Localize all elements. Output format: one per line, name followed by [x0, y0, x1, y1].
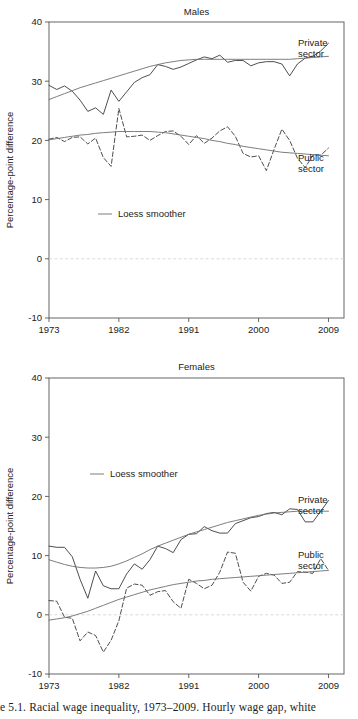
x-axis-tick-label: 2009: [318, 680, 339, 691]
x-axis-tick-label: 1982: [108, 680, 129, 691]
series-line-public-sector: [49, 552, 328, 652]
y-axis-tick-label: -10: [28, 312, 42, 323]
public-sector-label-line1: Public: [298, 549, 324, 560]
y-axis-tick-label: -10: [28, 668, 42, 679]
panel-title: Females: [178, 361, 215, 372]
series-line-private-sector-loess: [49, 511, 328, 568]
figure-racial-wage-inequality: Males403020100-1019731982199120002009Per…: [0, 0, 358, 719]
y-axis-tick-label: 0: [37, 609, 42, 620]
private-sector-label-line1: Private: [298, 494, 328, 505]
x-axis-tick-label: 1973: [38, 324, 59, 335]
series-line-private-sector: [49, 43, 328, 114]
series-line-private-sector-loess: [49, 56, 328, 99]
chart-panel-females: Females403020100-1019731982199120002009P…: [0, 352, 358, 700]
private-sector-label-line2: sector: [298, 48, 324, 59]
x-axis-tick-label: 2009: [318, 324, 339, 335]
x-axis-tick-label: 1991: [178, 324, 199, 335]
y-axis-tick-label: 30: [31, 432, 42, 443]
series-line-private-sector: [49, 501, 328, 599]
females-chart-svg: Females403020100-1019731982199120002009P…: [0, 352, 358, 700]
series-line-public-sector-loess: [49, 570, 328, 620]
chart-panel-males: Males403020100-1019731982199120002009Per…: [0, 0, 358, 352]
legend-loess-label: Loess smoother: [118, 208, 186, 219]
y-axis-tick-label: 10: [31, 194, 42, 205]
y-axis-tick-label: 30: [31, 76, 42, 87]
private-sector-label-line2: sector: [298, 505, 324, 516]
x-axis-tick-label: 1991: [178, 680, 199, 691]
public-sector-label-line2: sector: [298, 560, 324, 571]
private-sector-label-line1: Private: [298, 37, 328, 48]
public-sector-label-line1: Public: [298, 152, 324, 163]
y-axis-tick-label: 10: [31, 550, 42, 561]
legend-loess-label: Loess smoother: [110, 468, 178, 479]
males-chart-svg: Males403020100-1019731982199120002009Per…: [0, 0, 358, 352]
y-axis-tick-label: 0: [37, 253, 42, 264]
panel-title: Males: [184, 6, 210, 17]
plot-frame: [49, 378, 344, 674]
x-axis-tick-label: 2000: [248, 680, 269, 691]
y-axis-tick-label: 40: [31, 372, 42, 383]
x-axis-tick-label: 2000: [248, 324, 269, 335]
y-axis-tick-label: 20: [31, 491, 42, 502]
y-axis-tick-label: 20: [31, 135, 42, 146]
public-sector-label-line2: sector: [298, 163, 324, 174]
y-axis-title: Percentage-point difference: [4, 112, 15, 229]
series-line-public-sector: [49, 108, 328, 170]
series-line-public-sector-loess: [49, 132, 328, 156]
x-axis-tick-label: 1973: [38, 680, 59, 691]
y-axis-tick-label: 40: [31, 16, 42, 27]
y-axis-title: Percentage-point difference: [4, 468, 15, 585]
x-axis-tick-label: 1982: [108, 324, 129, 335]
figure-caption: e 5.1. Racial wage inequality, 1973–2009…: [0, 700, 358, 719]
